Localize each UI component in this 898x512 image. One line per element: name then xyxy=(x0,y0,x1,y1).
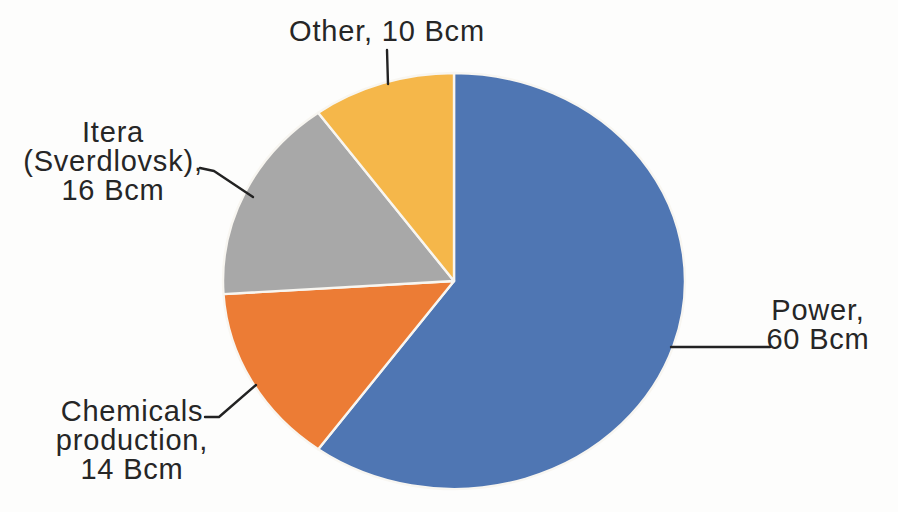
slice-label-other: Other, 10 Bcm xyxy=(267,16,507,46)
leader-line-other xyxy=(387,50,388,84)
slice-label-chemicals-production: Chemicals production, 14 Bcm xyxy=(32,397,232,484)
slice-label-power: Power, 60 Bcm xyxy=(738,296,898,354)
slice-label-itera-sverdlovsk: Itera (Sverdlovsk), 16 Bcm xyxy=(13,118,213,205)
pie-chart-figure: Other, 10 Bcm Itera (Sverdlovsk), 16 Bcm… xyxy=(0,0,898,512)
